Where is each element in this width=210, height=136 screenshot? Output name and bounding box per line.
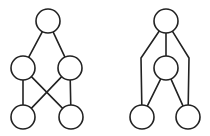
right-graph-edge-B-D [171,79,183,106]
left-graph-node-C [58,56,82,80]
nodes-layer [11,9,200,129]
right-graph-node-D [176,105,200,129]
right-graph-node-B [154,56,178,80]
right-graph-edge-B-C [147,79,160,106]
left-graph-node-A [36,9,60,33]
right-graph-node-C [130,105,154,129]
left-graph-node-B [11,56,35,80]
right-graph-node-A [154,9,178,33]
diagram-canvas [0,0,210,136]
left-graph-edge-A-C [53,32,65,57]
left-graph-edge-A-B [29,32,43,58]
left-graph-node-E [59,105,83,129]
left-graph-node-D [11,105,35,129]
left-graph-edge-C-E [70,80,71,105]
